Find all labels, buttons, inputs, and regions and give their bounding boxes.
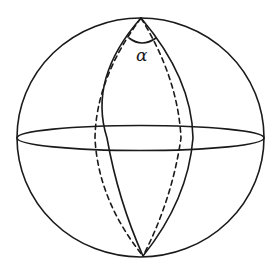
meridian-right-front: [141, 18, 193, 256]
angle-arc: [129, 38, 156, 43]
equator-ellipse: [17, 126, 264, 151]
angle-label: α: [136, 45, 148, 65]
sphere-lune-diagram: α: [0, 0, 278, 272]
